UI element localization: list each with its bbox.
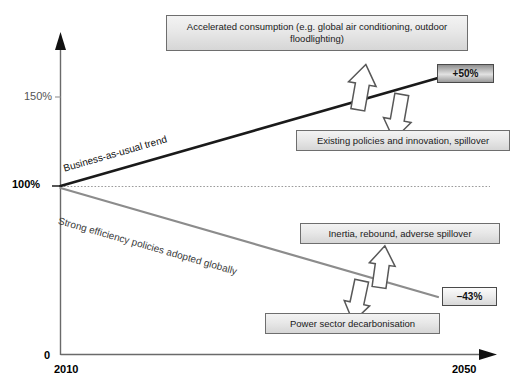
y-tick-label-100: 100% bbox=[12, 178, 40, 190]
callout-inertia-rebound[interactable]: Inertia, rebound, adverse spillover bbox=[300, 223, 500, 244]
figure-root: 150% 100% 0 2010 2050 Business-as-usual … bbox=[0, 0, 523, 391]
y-tick-label-150: 150% bbox=[24, 90, 52, 102]
bau-trend-label: Business-as-usual trend bbox=[62, 133, 168, 173]
callout-existing-policies[interactable]: Existing policies and innovation, spillo… bbox=[296, 130, 510, 151]
block-arrow-up-icon bbox=[344, 62, 380, 112]
callout-power-sector-decarbonisation[interactable]: Power sector decarbonisation bbox=[265, 313, 440, 334]
badge-bau-endpoint[interactable]: +50% bbox=[437, 64, 494, 83]
x-tick-label-2050: 2050 bbox=[452, 363, 476, 375]
x-tick-label-2010: 2010 bbox=[54, 363, 78, 375]
chart-vector-layer bbox=[0, 0, 523, 391]
axis-arrowhead-up-icon bbox=[55, 32, 66, 50]
badge-efficiency-endpoint[interactable]: –43% bbox=[442, 287, 497, 306]
axis-arrowhead-right-icon bbox=[479, 349, 497, 360]
y-tick-label-0: 0 bbox=[44, 349, 50, 361]
block-arrow-up-icon bbox=[366, 244, 398, 289]
efficiency-trend-label: Strong efficiency policies adopted globa… bbox=[57, 215, 238, 277]
callout-accelerated-consumption[interactable]: Accelerated consumption (e.g. global air… bbox=[166, 15, 468, 51]
